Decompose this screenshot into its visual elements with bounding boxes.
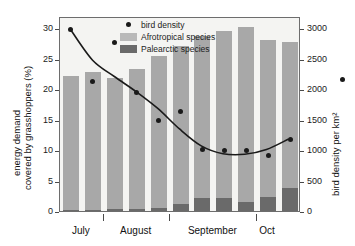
bird-density-point xyxy=(244,148,249,153)
y-axis-tick-label: 0 xyxy=(31,207,53,216)
bird-density-point xyxy=(222,148,227,153)
secondary-y-axis-tick-label: 2000 xyxy=(307,85,327,94)
y-axis-tick xyxy=(55,182,59,183)
x-axis-separator xyxy=(103,214,104,221)
secondary-y-axis-tick xyxy=(300,151,304,152)
afrotropical-swatch-icon xyxy=(119,33,137,41)
x-axis-separator xyxy=(256,214,257,221)
secondary-y-axis-marker-icon xyxy=(340,77,345,82)
secondary-y-axis-title: bird density per km² xyxy=(330,113,341,196)
legend: bird density Afrotropical species Palear… xyxy=(119,19,215,55)
secondary-y-axis-tick xyxy=(300,29,304,30)
secondary-y-axis-tick-label: 0 xyxy=(307,207,312,216)
legend-item-bird-density: bird density xyxy=(119,19,215,30)
x-axis-month-label: September xyxy=(169,225,257,236)
legend-item-palearctic: Palearctic species xyxy=(119,43,215,54)
palearctic-swatch-icon xyxy=(119,45,137,53)
y-axis-tick xyxy=(55,90,59,91)
bird-density-point xyxy=(156,118,161,123)
x-axis-month-label: August xyxy=(103,225,169,236)
y-axis-tick xyxy=(55,151,59,152)
bird-density-dot-icon xyxy=(119,22,137,27)
y-axis-title-line1: energy demand xyxy=(11,110,22,176)
secondary-y-axis-tick-label: 2500 xyxy=(307,55,327,64)
y-axis-tick-label: 20 xyxy=(31,85,53,94)
secondary-y-axis-tick-label: 500 xyxy=(307,177,322,186)
y-axis-tick-label: 15 xyxy=(31,116,53,125)
y-axis-tick xyxy=(55,29,59,30)
secondary-y-axis-tick-label: 3000 xyxy=(307,24,327,33)
secondary-y-axis-tick xyxy=(300,60,304,61)
x-axis-month-label: Oct xyxy=(256,225,278,236)
legend-item-afrotropical: Afrotropical species xyxy=(119,31,215,42)
y-axis-tick xyxy=(55,121,59,122)
y-axis-tick-label: 10 xyxy=(31,146,53,155)
legend-label: Afrotropical species xyxy=(141,32,215,42)
secondary-y-axis-tick xyxy=(300,212,304,213)
y-axis-tick xyxy=(55,60,59,61)
legend-label: Palearctic species xyxy=(141,44,210,54)
secondary-y-axis-tick-label: 1500 xyxy=(307,116,327,125)
secondary-y-axis-tick xyxy=(300,121,304,122)
y-axis-tick-label: 25 xyxy=(31,55,53,64)
bird-density-point xyxy=(288,137,293,142)
y-axis-tick-label: 5 xyxy=(31,177,53,186)
bird-density-point xyxy=(266,153,271,158)
chart-figure: energy demand covered by grasshoppers (%… xyxy=(0,0,355,246)
bird-density-point xyxy=(178,109,183,114)
y-axis-tick-label: 30 xyxy=(31,24,53,33)
legend-label: bird density xyxy=(141,20,184,30)
x-axis: JulyAugustSeptemberOct xyxy=(59,212,300,246)
x-axis-month-label: July xyxy=(59,225,103,236)
secondary-y-axis-tick-label: 1000 xyxy=(307,146,327,155)
secondary-y-axis-tick xyxy=(300,90,304,91)
x-axis-separator xyxy=(169,214,170,221)
secondary-y-axis-tick xyxy=(300,182,304,183)
